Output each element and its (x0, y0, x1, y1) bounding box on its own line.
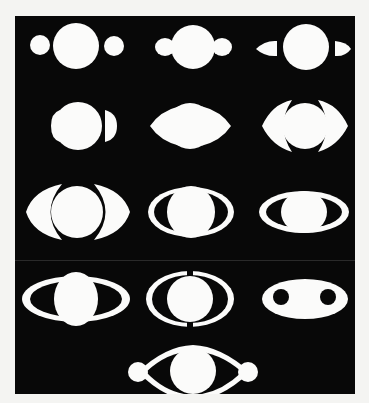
figure-8 (148, 186, 234, 238)
figure-6 (262, 100, 348, 152)
figure-1 (30, 23, 124, 69)
figure-10 (22, 272, 130, 326)
saturn-figures-illustration (15, 16, 355, 394)
figure-7 (26, 184, 130, 240)
figure-9 (259, 191, 349, 233)
figure-12 (262, 279, 348, 319)
figure-2 (155, 25, 232, 69)
figure-13 (128, 345, 258, 394)
figure-11 (146, 270, 234, 328)
figure-5 (150, 103, 231, 149)
figure-4 (51, 102, 117, 150)
illustration-plate (15, 16, 355, 394)
figure-3 (256, 24, 351, 70)
